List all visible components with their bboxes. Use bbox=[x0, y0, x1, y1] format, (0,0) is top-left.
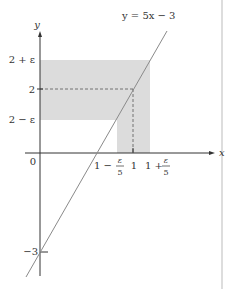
x-label-right-frac-den: 5 bbox=[163, 168, 168, 177]
y-axis-label: y bbox=[33, 19, 40, 30]
origin-label: 0 bbox=[30, 156, 36, 167]
equation-label: y = 5x − 3 bbox=[121, 10, 176, 21]
x-axis-label: x bbox=[219, 147, 225, 158]
epsilon-delta-diagram: y = 5x − 3 y x 0 2 + ε 2 2 − ε −3 1 − ε … bbox=[0, 0, 228, 289]
y-label-2: 2 bbox=[29, 84, 35, 95]
y-label-neg3: −3 bbox=[23, 246, 38, 257]
x-label-right-prefix: 1 + bbox=[145, 160, 163, 171]
y-axis-arrow-icon bbox=[38, 31, 42, 37]
x-label-left-prefix: 1 − bbox=[94, 160, 112, 171]
y-label-2-minus-epsilon: 2 − ε bbox=[9, 114, 35, 125]
x-label-left-frac-num: ε bbox=[118, 156, 122, 165]
y-label-2-plus-epsilon: 2 + ε bbox=[9, 54, 35, 65]
x-label-1: 1 bbox=[131, 160, 137, 171]
x-label-right-frac-num: ε bbox=[164, 156, 168, 165]
x-label-left-frac-den: 5 bbox=[117, 168, 122, 177]
x-axis-arrow-icon bbox=[209, 151, 215, 155]
delta-band bbox=[117, 60, 150, 153]
